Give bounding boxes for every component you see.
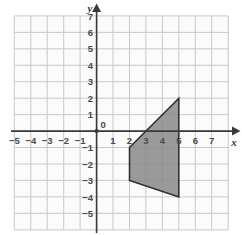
x-tick-label: 3 bbox=[143, 135, 148, 146]
x-tick-label: 1 bbox=[110, 135, 116, 146]
y-tick-label: 5 bbox=[88, 43, 94, 54]
x-tick-label: −3 bbox=[42, 135, 53, 146]
y-tick-label: 3 bbox=[88, 76, 93, 87]
y-tick-label: −4 bbox=[82, 192, 94, 203]
x-tick-label: −2 bbox=[58, 135, 69, 146]
y-tick-label: 1 bbox=[88, 109, 94, 120]
y-tick-label: 6 bbox=[88, 27, 93, 38]
x-tick-label: 4 bbox=[160, 135, 166, 146]
y-tick-label: −1 bbox=[82, 142, 94, 153]
y-axis-arrow bbox=[92, 4, 101, 13]
x-tick-label: 6 bbox=[193, 135, 198, 146]
grid-background bbox=[14, 16, 228, 230]
x-tick-label: −4 bbox=[25, 135, 37, 146]
y-axis-label: y bbox=[86, 2, 93, 14]
x-tick-label: 2 bbox=[127, 135, 132, 146]
x-tick-label: 7 bbox=[209, 135, 214, 146]
x-axis-arrow bbox=[232, 127, 241, 136]
x-tick-label: 5 bbox=[176, 135, 182, 146]
origin-label: 0 bbox=[101, 119, 106, 130]
y-tick-label: −3 bbox=[82, 175, 93, 186]
coordinate-graph-svg: −5 −4 −3 −2 −1 1 2 3 4 5 6 7 7 6 5 4 3 2… bbox=[0, 0, 242, 235]
y-tick-label: 2 bbox=[88, 93, 93, 104]
coordinate-plane-figure: −5 −4 −3 −2 −1 1 2 3 4 5 6 7 7 6 5 4 3 2… bbox=[0, 0, 242, 235]
y-tick-label: −2 bbox=[82, 159, 93, 170]
x-axis-label: x bbox=[230, 136, 237, 148]
y-tick-label: 4 bbox=[88, 60, 94, 71]
x-tick-label: −5 bbox=[9, 135, 21, 146]
origin-point bbox=[95, 129, 99, 133]
y-tick-label: −5 bbox=[82, 208, 94, 219]
